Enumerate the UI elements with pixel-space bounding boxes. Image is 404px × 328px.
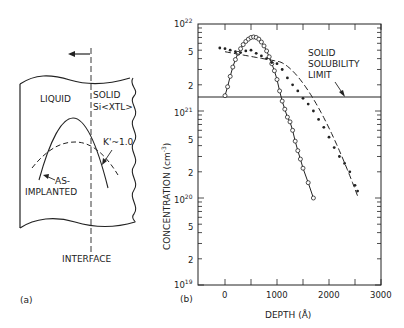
y-tick-1e19: 1019 bbox=[174, 278, 193, 290]
solid-si-label: Si<XTL> bbox=[93, 102, 133, 112]
svg-text:2: 2 bbox=[188, 81, 193, 91]
as-label: AS- bbox=[55, 176, 70, 186]
k-prime-label: K'~1.0 bbox=[103, 137, 134, 147]
solid-label: SOLID bbox=[93, 90, 120, 100]
panel-b-chart: SOLID SOLUBILITY LIMIT 1022 1021 1020 10… bbox=[160, 17, 392, 320]
solubility-annotation-2: SOLUBILITY bbox=[308, 59, 360, 69]
solubility-annotation-3: LIMIT bbox=[308, 70, 332, 80]
y-tick-1e21: 1021 bbox=[174, 106, 193, 118]
as-implanted-series bbox=[223, 35, 315, 200]
svg-text:2000: 2000 bbox=[318, 290, 340, 300]
solubility-annotation-1: SOLID bbox=[308, 48, 335, 58]
svg-text:3000: 3000 bbox=[370, 290, 392, 300]
figure: LIQUID SOLID Si<XTL> K'~1.0 AS- IMPLANTE… bbox=[0, 0, 404, 328]
liquid-label: LIQUID bbox=[40, 94, 71, 104]
implanted-label: IMPLANTED bbox=[25, 187, 77, 197]
x-axis-label: DEPTH (Å) bbox=[265, 309, 311, 320]
y-tick-1e20: 1020 bbox=[174, 193, 193, 205]
svg-text:5: 5 bbox=[188, 135, 193, 145]
interface-label: INTERFACE bbox=[62, 254, 111, 264]
y-tick-1e22: 1022 bbox=[174, 17, 193, 29]
panel-a-label: (a) bbox=[20, 295, 33, 305]
svg-text:2: 2 bbox=[188, 168, 193, 178]
panel-a-schematic: LIQUID SOLID Si<XTL> K'~1.0 AS- IMPLANTE… bbox=[20, 48, 136, 305]
y-axis-label: CONCENTRATION (cm-3) bbox=[160, 143, 172, 250]
svg-text:0: 0 bbox=[222, 290, 227, 300]
panel-b-label: (b) bbox=[180, 294, 193, 304]
svg-text:2: 2 bbox=[188, 255, 193, 265]
svg-text:5: 5 bbox=[188, 47, 193, 57]
svg-text:5: 5 bbox=[188, 222, 193, 232]
svg-text:1000: 1000 bbox=[266, 290, 288, 300]
